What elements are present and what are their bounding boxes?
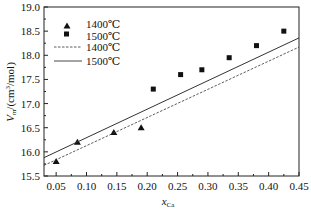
y-tick-label: 18.5 xyxy=(21,25,41,37)
legend-label-1400-fit: 1400℃ xyxy=(86,41,120,53)
y-tick-label: 17.5 xyxy=(21,73,41,85)
x-axis-label: xCa xyxy=(161,195,176,209)
data-point-1500 xyxy=(178,72,183,77)
data-point-1500 xyxy=(151,87,156,92)
x-axis-ticks: 0.050.100.150.200.250.300.350.400.45 xyxy=(47,172,310,192)
x-tick-label: 0.30 xyxy=(198,180,218,192)
x-tick-label: 0.45 xyxy=(289,180,309,192)
x-tick-label: 0.35 xyxy=(229,180,249,192)
y-tick-label: 16.0 xyxy=(21,146,41,158)
y-tick-label: 18.0 xyxy=(21,49,41,61)
y-tick-label: 16.5 xyxy=(21,122,41,134)
data-point-1500 xyxy=(254,43,259,48)
legend-triangle-icon xyxy=(64,23,71,29)
fit-line-1500 xyxy=(44,38,299,158)
y-axis-label: Vm/(cm3/mol) xyxy=(4,62,18,122)
x-tick-label: 0.15 xyxy=(107,180,127,192)
chart: 0.050.100.150.200.250.300.350.400.45 15.… xyxy=(0,0,311,212)
legend: 1400℃ 1500℃ 1400℃ 1500℃ xyxy=(54,18,120,67)
y-tick-label: 15.5 xyxy=(21,170,41,182)
fit-line-1400 xyxy=(44,47,299,165)
data-point-1500 xyxy=(199,67,204,72)
plot-frame xyxy=(44,7,299,176)
data-series xyxy=(44,29,299,166)
x-tick-label: 0.40 xyxy=(259,180,279,192)
legend-label-1500-fit: 1500℃ xyxy=(86,55,120,67)
x-tick-label: 0.10 xyxy=(77,180,97,192)
legend-square-icon xyxy=(64,32,69,37)
data-point-1500 xyxy=(227,55,232,60)
x-tick-label: 0.20 xyxy=(138,180,158,192)
legend-label-1400-points: 1400℃ xyxy=(86,18,120,30)
data-point-1400 xyxy=(53,158,60,164)
data-point-1500 xyxy=(281,29,286,34)
x-tick-label: 0.05 xyxy=(47,180,67,192)
x-tick-label: 0.25 xyxy=(168,180,188,192)
y-tick-label: 19.0 xyxy=(21,1,41,13)
data-point-1400 xyxy=(138,124,145,130)
y-tick-label: 17.0 xyxy=(21,98,41,110)
